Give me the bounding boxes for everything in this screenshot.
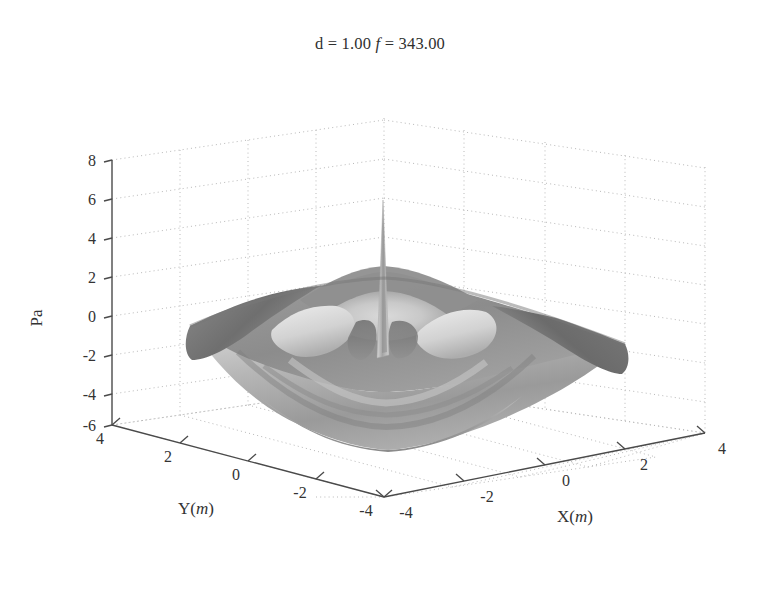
y-axis-label-prefix: Y( — [178, 499, 196, 518]
z-tick-label: 6 — [88, 191, 96, 208]
z-axis-ticks: 8 6 4 2 0 -2 -4 -6 — [83, 152, 112, 434]
x-tick-label: -4 — [399, 504, 412, 521]
surface-mesh — [186, 200, 629, 452]
y-axis-label-unit: m — [196, 499, 208, 518]
z-tick-label: 0 — [88, 308, 96, 325]
z-tick-label: 2 — [88, 269, 96, 286]
z-tick-label: -6 — [83, 417, 96, 434]
z-tick-label: -4 — [83, 386, 96, 403]
x-tick-label: 4 — [718, 440, 726, 457]
z-tick-label: -2 — [83, 347, 96, 364]
figure-canvas: d = 1.00 f = 343.00 — [0, 0, 760, 599]
x-axis-label-suffix: ) — [587, 507, 593, 526]
y-axis-label-suffix: ) — [208, 499, 214, 518]
x-tick-label: 2 — [640, 456, 648, 473]
y-tick-label: 0 — [232, 466, 240, 483]
y-tick-label: 2 — [164, 448, 172, 465]
y-tick-label: 4 — [96, 430, 104, 447]
x-axis-label-unit: m — [575, 507, 587, 526]
z-tick-label: 8 — [88, 152, 96, 169]
x-axis-label-prefix: X( — [557, 507, 575, 526]
y-tick-label: -4 — [359, 502, 372, 519]
z-axis-label: Pa — [27, 309, 46, 326]
y-axis-label: Y(m) — [178, 499, 214, 518]
x-tick-label: 0 — [562, 472, 570, 489]
y-tick-label: -2 — [293, 484, 306, 501]
x-axis-label: X(m) — [557, 507, 593, 526]
x-tick-label: -2 — [480, 488, 493, 505]
z-tick-label: 4 — [88, 230, 96, 247]
surface-plot-svg: 8 6 4 2 0 -2 -4 -6 4 2 0 -2 -4 — [0, 0, 760, 599]
